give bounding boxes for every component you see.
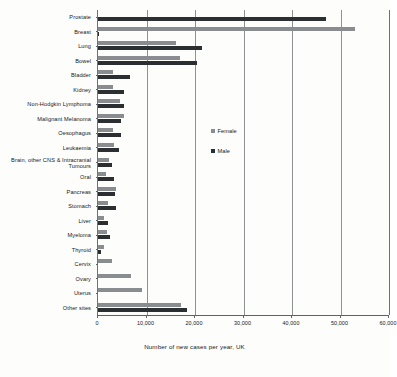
bar-female xyxy=(98,187,116,191)
category-tick xyxy=(96,133,98,134)
bar-group xyxy=(98,301,389,315)
category-label: Oral xyxy=(0,174,91,180)
legend-label-male: Male xyxy=(218,148,231,154)
chart-legend: Female Male xyxy=(211,128,237,168)
category-label: Bowel xyxy=(0,58,91,64)
category-label: Uterus xyxy=(0,290,91,296)
bar-male xyxy=(98,163,112,167)
category-tick xyxy=(96,118,98,119)
bar-group xyxy=(98,83,389,97)
bar-group xyxy=(98,112,389,126)
category-label: Ovary xyxy=(0,275,91,281)
legend-item-female: Female xyxy=(211,128,237,134)
category-tick xyxy=(96,162,98,163)
category-tick xyxy=(96,17,98,18)
bar-female xyxy=(98,99,120,103)
category-tick xyxy=(96,31,98,32)
category-tick xyxy=(96,206,98,207)
bar-group xyxy=(98,126,389,140)
tick-mark xyxy=(146,315,147,318)
bar-female xyxy=(98,56,180,60)
plot-area xyxy=(97,10,390,315)
category-tick xyxy=(96,307,98,308)
category-label: Prostate xyxy=(0,14,91,20)
x-tick-label: 30,000 xyxy=(234,320,251,326)
category-label: Other sites xyxy=(0,305,91,311)
category-tick xyxy=(96,293,98,294)
x-axis-title: Number of new cases per year, UK xyxy=(0,343,389,350)
bar-female xyxy=(98,85,113,89)
bar-female xyxy=(98,303,181,307)
category-tick xyxy=(96,89,98,90)
bar-male xyxy=(98,308,187,312)
bar-male xyxy=(98,32,99,36)
bar-group xyxy=(98,39,389,53)
category-label: Pancreas xyxy=(0,188,91,194)
bar-group xyxy=(98,214,389,228)
bar-female xyxy=(98,274,131,278)
tick-mark xyxy=(97,315,98,318)
category-label: Oesophagus xyxy=(0,130,91,136)
bar-female xyxy=(98,201,108,205)
bar-male xyxy=(98,192,115,196)
category-label: Leukaemia xyxy=(0,145,91,151)
bar-group xyxy=(98,54,389,68)
x-tick-label: 50,000 xyxy=(331,320,348,326)
category-tick xyxy=(96,177,98,178)
category-label: Stomach xyxy=(0,203,91,209)
bar-group xyxy=(98,185,389,199)
bar-group xyxy=(98,10,389,24)
bar-female xyxy=(98,288,142,292)
x-tick-label: 0 xyxy=(95,320,98,326)
tick-mark xyxy=(340,315,341,318)
category-tick xyxy=(96,278,98,279)
x-tick-label: 20,000 xyxy=(185,320,202,326)
category-label: Brain, other CNS & Intracranial Tumours xyxy=(0,156,91,169)
bar-male xyxy=(98,61,197,65)
category-tick xyxy=(96,220,98,221)
x-tick-label: 60,000 xyxy=(379,320,396,326)
male-swatch-icon xyxy=(211,149,215,153)
category-label: Thyroid xyxy=(0,246,91,252)
category-tick xyxy=(96,46,98,47)
bar-female xyxy=(98,27,355,31)
bar-male xyxy=(98,133,121,137)
x-tick-label: 40,000 xyxy=(282,320,299,326)
bar-male xyxy=(98,235,110,239)
category-tick xyxy=(96,75,98,76)
category-label: Kidney xyxy=(0,87,91,93)
category-tick xyxy=(96,191,98,192)
bar-group xyxy=(98,243,389,257)
category-label: Myeloma xyxy=(0,232,91,238)
bar-group xyxy=(98,199,389,213)
bar-female xyxy=(98,41,176,45)
bar-male xyxy=(98,148,119,152)
tick-mark xyxy=(291,315,292,318)
bar-male xyxy=(98,75,130,79)
bar-group xyxy=(98,97,389,111)
bar-male xyxy=(98,250,101,254)
category-label: Breast xyxy=(0,29,91,35)
bar-female xyxy=(98,143,114,147)
bar-group xyxy=(98,228,389,242)
bar-group xyxy=(98,257,389,271)
bar-group xyxy=(98,141,389,155)
bar-group xyxy=(98,68,389,82)
category-tick xyxy=(96,147,98,148)
legend-item-male: Male xyxy=(211,148,237,154)
tick-mark xyxy=(388,315,389,318)
bar-group xyxy=(98,170,389,184)
bar-female xyxy=(98,230,107,234)
bar-female xyxy=(98,70,113,74)
bar-female xyxy=(98,216,104,220)
category-label: Bladder xyxy=(0,72,91,78)
bar-female xyxy=(98,172,106,176)
bar-male xyxy=(98,177,114,181)
bar-female xyxy=(98,128,113,132)
bar-male xyxy=(98,119,121,123)
legend-label-female: Female xyxy=(218,128,237,134)
bar-male xyxy=(98,17,326,21)
category-tick xyxy=(96,249,98,250)
category-tick xyxy=(96,104,98,105)
